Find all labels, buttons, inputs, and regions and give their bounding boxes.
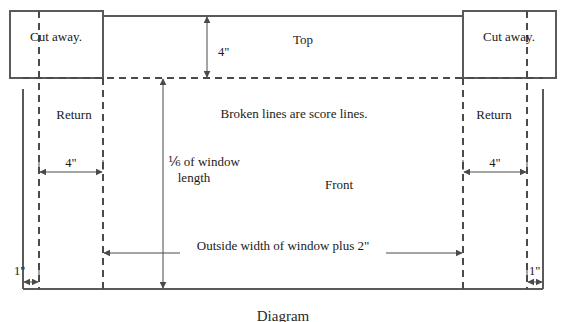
front-panel-label: Front: [325, 177, 354, 192]
cut-away-label-left-line1: Cut away.: [30, 29, 82, 44]
edge-right-value: 1": [529, 264, 540, 278]
figure-caption-text: Diagram: [0, 309, 566, 322]
return-width-left-value: 4": [65, 156, 76, 170]
cut-away-label-right-line1: Cut away.: [483, 29, 535, 44]
return-width-right-value: 4": [489, 156, 500, 170]
cut-away-box-left: [10, 11, 103, 78]
top-depth-value: 4": [218, 45, 229, 59]
top-panel-outline: [103, 16, 463, 78]
diagram-canvas: Cut away. Cut away. Top 4" Broken lines …: [0, 0, 566, 322]
edge-left-value: 1": [14, 264, 25, 278]
return-label-right: Return: [476, 107, 512, 122]
front-width-value: Outside width of window plus 2": [197, 238, 370, 253]
dimension-edge-left: [24, 270, 39, 282]
front-height-value-line1: ⅙ of window: [168, 154, 240, 169]
front-height-value-line2: length: [178, 170, 211, 185]
return-label-left: Return: [56, 107, 92, 122]
top-panel-label: Top: [293, 32, 313, 47]
figure-caption-clipped: Diagram: [0, 308, 566, 322]
diagram-svg: Cut away. Cut away. Top 4" Broken lines …: [0, 0, 566, 322]
score-lines-note: Broken lines are score lines.: [221, 106, 368, 121]
cut-away-box-right: [463, 11, 556, 78]
